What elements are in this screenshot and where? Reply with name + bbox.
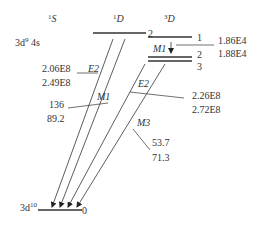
e2-triplet-arrow xyxy=(68,64,145,207)
e2-triplet-value-2: 2.72E8 xyxy=(192,104,221,115)
level-3D1-j: 1 xyxy=(197,32,202,43)
e2-triplet-leader xyxy=(130,92,184,98)
m1-triplet-label: M1 xyxy=(152,43,166,54)
m3-triplet-leader xyxy=(133,129,150,150)
term-1S: 1S xyxy=(48,13,57,24)
m1-triplet-value-2: 1.88E4 xyxy=(218,48,247,59)
e2-triplet-value-1: 2.26E8 xyxy=(192,90,221,101)
m3-triplet-label: M3 xyxy=(136,117,150,128)
level-3D3-j: 3 xyxy=(197,61,202,72)
config-excited: 3d9 4s xyxy=(15,36,40,48)
energy-level-diagram: 1S 1D 3D 3d9 4s 3d10 2 1 2 3 0 M1 1.86E4… xyxy=(0,0,261,227)
m3-triplet-value-2: 71.3 xyxy=(152,152,170,163)
m1-singlet-value-2: 89.2 xyxy=(47,113,65,124)
term-3D: 3D xyxy=(164,13,176,24)
level-3D2-j: 2 xyxy=(197,49,202,60)
m1-triplet-value-1: 1.86E4 xyxy=(218,35,247,46)
m1-singlet-value-1: 136 xyxy=(49,99,64,110)
m3-triplet-arrow xyxy=(77,64,165,207)
e2-singlet-label: E2 xyxy=(87,63,99,74)
m3-triplet-value-1: 53.7 xyxy=(152,137,170,148)
e2-singlet-value-2: 2.49E8 xyxy=(42,77,71,88)
term-1D: 1D xyxy=(113,13,125,24)
config-ground: 3d10 xyxy=(20,201,38,213)
level-ground-j: 0 xyxy=(82,205,87,216)
m1-singlet-label: M1 xyxy=(96,91,110,102)
e2-triplet-label: E2 xyxy=(137,78,149,89)
e2-singlet-value-1: 2.06E8 xyxy=(42,63,71,74)
